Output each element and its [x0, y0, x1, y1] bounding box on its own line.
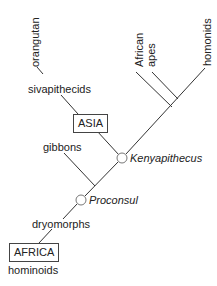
label-gibbons: gibbons	[43, 141, 82, 153]
branch-asia-to-kenyapithecus	[97, 131, 119, 155]
branch-gibbons	[64, 153, 95, 186]
label-kenyapithecus: Kenyapithecus	[130, 152, 202, 164]
node-kenyapithecus	[117, 153, 127, 163]
label-african: African	[133, 33, 145, 67]
label-proconsul: Proconsul	[89, 194, 138, 206]
label-orangutan: orangutan	[29, 17, 41, 67]
branch-apes	[152, 72, 178, 99]
region-box-asia: ASIA	[73, 114, 108, 133]
label-dryomorphs: dryomorphs	[32, 218, 90, 230]
branch-african	[136, 72, 172, 107]
branch-sivapithecids-to-asia	[61, 95, 78, 114]
region-box-africa: AFRICA	[9, 243, 59, 262]
branch-orangutan	[37, 67, 43, 74]
node-proconsul	[76, 195, 86, 205]
trunk-africa-to-dryomorphs	[39, 229, 52, 243]
trunk-dryomorphs-to-proconsul	[63, 204, 77, 219]
trunk-proconsul-to-kenyapithecus	[85, 162, 118, 196]
label-homonids: homonids	[201, 18, 213, 66]
label-hominoids: hominoids	[8, 264, 58, 276]
trunk-kenyapithecus-to-homonids	[126, 68, 205, 154]
label-apes: apes	[145, 43, 157, 67]
label-sivapithecids: sivapithecids	[28, 83, 91, 95]
